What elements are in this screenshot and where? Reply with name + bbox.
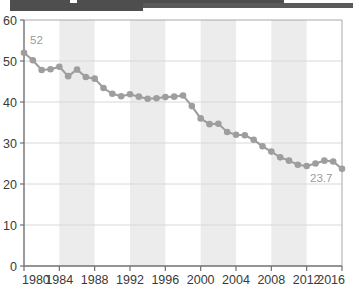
data-point [339,166,346,173]
data-point [74,66,81,73]
data-annotation: 52 [30,34,43,46]
data-point [118,93,125,100]
x-axis-label: 1996 [151,273,179,287]
y-axis-label: 10 [3,219,17,233]
data-point [91,75,98,82]
data-point [286,157,293,164]
x-axis-label: 1992 [116,273,144,287]
data-point [197,115,204,122]
data-point [21,50,28,57]
header-bar-thin-segment [143,3,353,8]
x-axis-label: 1988 [81,273,109,287]
data-point [206,121,213,128]
y-axis-label: 20 [3,178,17,192]
data-point [47,66,54,73]
data-point [180,92,187,99]
x-axis-label: 2016 [317,273,345,287]
y-axis-label: 40 [3,96,17,110]
x-axis-labels-group: 1980198419881992199620002004200820122016 [22,273,345,287]
data-point [330,158,337,165]
data-point [233,132,240,139]
y-axis-label: 60 [3,14,17,28]
data-point [250,136,257,143]
data-point [109,91,116,98]
data-point [153,95,160,102]
data-point [100,85,107,92]
x-axis-label: 2008 [257,273,285,287]
data-point [136,93,143,100]
y-axis-label: 30 [3,137,17,151]
data-point [83,74,90,81]
data-point [242,132,249,139]
data-point [38,67,45,74]
x-axis-label: 2000 [187,273,215,287]
data-point [312,160,319,167]
data-point [127,91,134,98]
data-point [144,95,151,102]
data-point [162,94,169,101]
screenshot-root: 0102030405060 19801984198819921996200020… [0,0,359,293]
data-annotation: 23.7 [310,172,332,184]
data-point [65,73,72,80]
data-point [259,143,266,150]
line-chart: 0102030405060 19801984198819921996200020… [0,11,359,293]
y-axis-label: 0 [10,260,17,274]
y-axis-labels-group: 0102030405060 [3,14,17,274]
data-point [30,57,37,64]
chart-svg: 0102030405060 19801984198819921996200020… [0,11,359,293]
data-point [295,161,302,168]
data-point [56,63,63,70]
data-point [224,129,231,136]
data-point [303,163,310,170]
data-point [171,93,178,100]
x-axis-label: 1984 [45,273,73,287]
cropped-header-bar [0,0,359,11]
data-point [277,154,284,161]
header-bar-notch [70,0,77,3]
data-point [268,148,275,155]
y-axis-label: 50 [3,55,17,69]
data-point [215,120,222,127]
data-point [321,157,328,164]
data-point [189,103,196,110]
x-axis-label: 2004 [222,273,250,287]
